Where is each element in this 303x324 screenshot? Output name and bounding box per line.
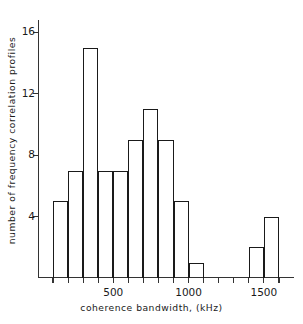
x-tick-label-1000: 1000 [175, 286, 202, 298]
y-tick-label-16: 16 [22, 25, 35, 37]
histogram-bar [83, 48, 98, 278]
y-axis-label: number of frequency correlation profiles [6, 26, 17, 256]
x-axis-label: coherence bandwidth, (kHz) [0, 302, 303, 313]
histogram-bar [264, 217, 279, 278]
histogram-bar [189, 263, 204, 278]
x-tick-1200 [218, 277, 219, 283]
histogram-figure: number of frequency correlation profiles… [0, 0, 303, 324]
x-tick-label-500: 500 [103, 286, 123, 298]
histogram-bar [158, 140, 173, 278]
histogram-bar [249, 247, 264, 278]
histogram-bar [143, 109, 158, 278]
histogram-bar [98, 171, 113, 279]
histogram-bar [113, 171, 128, 279]
y-tick-label-4: 4 [28, 210, 35, 222]
plot-area: 481216 50010001500 [38, 20, 294, 278]
histogram-bar [53, 201, 68, 278]
y-tick-label-12: 12 [22, 87, 35, 99]
y-axis-line [38, 20, 39, 278]
histogram-bar [174, 201, 189, 278]
y-axis-label-container: number of frequency correlation profiles [0, 0, 22, 290]
histogram-bar [68, 171, 83, 279]
y-tick-label-8: 8 [28, 148, 35, 160]
x-tick-label-1500: 1500 [251, 286, 278, 298]
histogram-bar [128, 140, 143, 278]
x-tick-1300 [233, 277, 234, 283]
